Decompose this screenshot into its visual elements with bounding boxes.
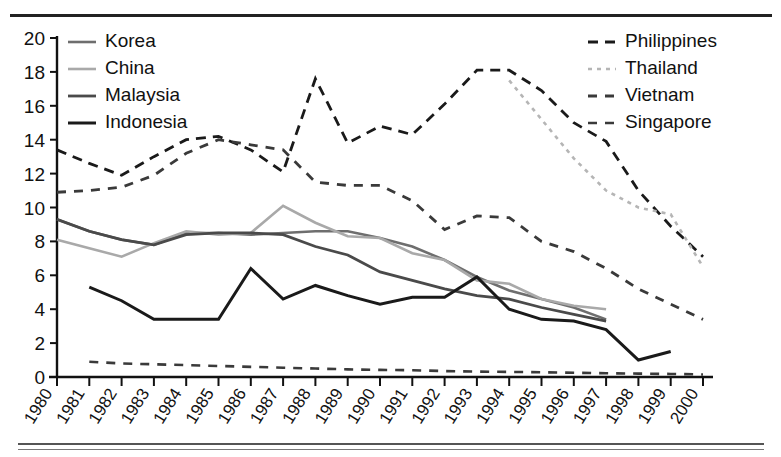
x-tick-label: 1996 (537, 385, 573, 427)
x-tick-label: 1989 (311, 385, 347, 427)
bottom-divider-rule-secondary (18, 449, 764, 450)
series-line-indonesia (89, 269, 670, 361)
bottom-divider-rule-primary (18, 443, 764, 445)
series-line-singapore (89, 362, 703, 375)
legend-label-korea: Korea (105, 30, 156, 51)
top-divider-rule (10, 14, 772, 17)
legend-label-malaysia: Malaysia (105, 84, 180, 105)
y-tick-label: 4 (34, 299, 45, 320)
x-tick-label: 1995 (505, 385, 541, 427)
legend-label-indonesia: Indonesia (105, 111, 188, 132)
y-tick-label: 6 (34, 265, 45, 286)
line-chart: 0246810121416182019801981198219831984198… (0, 0, 781, 457)
legend-label-singapore: Singapore (625, 111, 712, 132)
y-tick-label: 12 (24, 164, 45, 185)
series-line-malaysia (57, 219, 606, 321)
figure-container: 0246810121416182019801981198219831984198… (0, 0, 781, 457)
y-tick-label: 20 (24, 28, 45, 49)
x-tick-label: 1987 (246, 385, 282, 427)
legend-left: KoreaChinaMalaysiaIndonesia (68, 30, 188, 132)
legend-right: PhilippinesThailandVietnamSingapore (588, 30, 717, 132)
x-tick-label: 2000 (666, 385, 702, 427)
x-tick-label: 1986 (214, 385, 250, 427)
legend-label-thailand: Thailand (625, 57, 698, 78)
y-tick-label: 16 (24, 96, 45, 117)
x-tick-label: 1981 (53, 385, 89, 427)
x-tick-label: 1997 (569, 385, 605, 427)
x-axis-ticks: 1980198119821983198419851986198719881989… (20, 377, 703, 427)
y-tick-label: 18 (24, 62, 45, 83)
y-tick-label: 14 (24, 130, 46, 151)
x-tick-label: 1992 (408, 385, 444, 427)
x-tick-label: 1994 (472, 385, 508, 427)
legend-label-philippines: Philippines (625, 30, 717, 51)
legend-label-vietnam: Vietnam (625, 84, 694, 105)
x-tick-label: 1988 (279, 385, 315, 427)
x-tick-label: 1991 (376, 385, 412, 427)
x-tick-label: 1999 (634, 385, 670, 427)
y-axis-ticks: 02468101214161820 (24, 28, 57, 388)
y-tick-label: 2 (34, 333, 45, 354)
x-tick-label: 1990 (343, 385, 379, 427)
x-tick-label: 1984 (149, 385, 185, 427)
y-tick-label: 10 (24, 198, 45, 219)
x-tick-label: 1985 (182, 385, 218, 427)
x-tick-label: 1998 (602, 385, 638, 427)
x-tick-label: 1980 (20, 385, 56, 427)
x-tick-label: 1982 (85, 385, 121, 427)
x-tick-label: 1983 (117, 385, 153, 427)
legend-label-china: China (105, 57, 155, 78)
series-line-korea (57, 219, 606, 319)
series-line-vietnam (57, 140, 703, 320)
y-tick-label: 8 (34, 231, 45, 252)
x-tick-label: 1993 (440, 385, 476, 427)
